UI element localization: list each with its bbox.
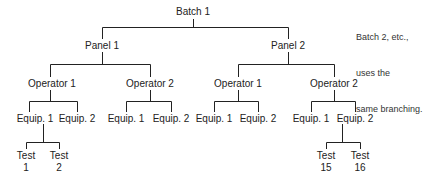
node-batch-1: Batch 1 (176, 6, 210, 18)
node-equipment: Equip. 1 (108, 113, 145, 125)
node-equipment: Equip. 2 (153, 113, 190, 125)
node-equipment: Equip. 1 (293, 113, 330, 125)
note-line: same branching. (356, 103, 423, 115)
note-line: Batch 2, etc., (356, 31, 423, 43)
branching-note: Batch 2, etc., uses the same branching. (356, 7, 423, 139)
test-number: 2 (50, 162, 68, 174)
test-number: 1 (17, 162, 35, 174)
node-operator: Operator 1 (214, 78, 262, 90)
test-label: Test (17, 150, 35, 162)
node-panel-2: Panel 2 (271, 40, 305, 52)
node-equipment: Equip. 2 (59, 113, 96, 125)
test-number: 16 (351, 162, 369, 174)
test-label: Test (50, 150, 68, 162)
node-test: Test 15 (317, 150, 335, 174)
node-equipment: Equip. 1 (17, 113, 54, 125)
node-panel-1: Panel 1 (85, 40, 119, 52)
node-equipment: Equip. 1 (196, 113, 233, 125)
node-equipment: Equip. 2 (240, 113, 277, 125)
test-label: Test (351, 150, 369, 162)
note-line: uses the (356, 67, 423, 79)
node-test: Test 1 (17, 150, 35, 174)
test-label: Test (317, 150, 335, 162)
test-number: 15 (317, 162, 335, 174)
node-operator: Operator 2 (310, 78, 358, 90)
node-test: Test 16 (351, 150, 369, 174)
hierarchy-diagram: Batch 1 Panel 1 Panel 2 Operator 1 Opera… (0, 0, 432, 180)
node-test: Test 2 (50, 150, 68, 174)
node-operator: Operator 1 (28, 78, 76, 90)
node-operator: Operator 2 (126, 78, 174, 90)
